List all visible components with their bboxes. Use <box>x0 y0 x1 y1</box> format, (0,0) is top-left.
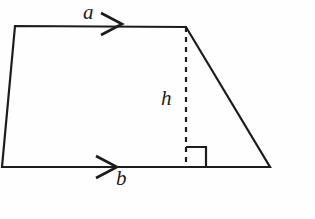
trapezoid-diagram <box>0 0 315 219</box>
side-label-b: b <box>116 168 127 189</box>
arrow-top-icon <box>101 13 122 35</box>
right-angle-marker <box>186 147 206 167</box>
height-label-h: h <box>161 88 172 109</box>
trapezoid-outline <box>2 26 270 167</box>
trapezoid-figure: a b h <box>0 0 315 219</box>
side-label-a: a <box>83 2 94 23</box>
